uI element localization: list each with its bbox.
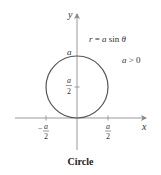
x-axis-label: x: [141, 121, 147, 132]
x-tick-label-pos-num: a: [106, 122, 110, 131]
y-tick-label-half-num: a: [67, 76, 71, 85]
figure-caption: Circle: [0, 156, 161, 167]
polar-circle-diagram: y x a a 2 − a 2 a 2 r = a sin θ a > 0: [0, 0, 161, 175]
x-tick-label-pos-den: 2: [106, 132, 110, 141]
condition-label: a > 0: [122, 55, 141, 65]
equation-label: r = a sin θ: [89, 34, 127, 44]
x-tick-label-neg-num: a: [44, 122, 48, 131]
y-tick-label-a: a: [67, 47, 72, 57]
y-tick-label-half-den: 2: [67, 87, 71, 96]
x-tick-label-neg-den: 2: [44, 132, 48, 141]
y-axis-label: y: [67, 9, 73, 20]
x-tick-label-neg-sign: −: [38, 124, 43, 133]
